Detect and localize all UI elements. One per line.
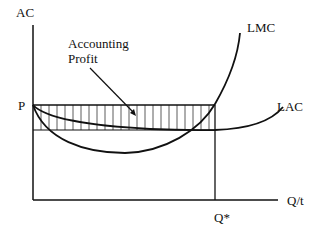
- annotation-line-1: Accounting: [68, 36, 129, 51]
- lmc-curve: [33, 33, 240, 153]
- economics-diagram: AC Q/t P Q* LMC LAC Accounting Profit: [0, 0, 322, 235]
- y-axis-label: AC: [16, 5, 34, 20]
- lac-curve: [33, 105, 283, 130]
- lac-label: LAC: [277, 99, 303, 114]
- x-axis-label: Q/t: [287, 193, 304, 208]
- quantity-label: Q*: [214, 210, 230, 225]
- accounting-profit-hatching: [41, 105, 209, 130]
- annotation-line-2: Profit: [68, 51, 98, 66]
- lmc-label: LMC: [247, 20, 275, 35]
- price-label: P: [18, 98, 25, 113]
